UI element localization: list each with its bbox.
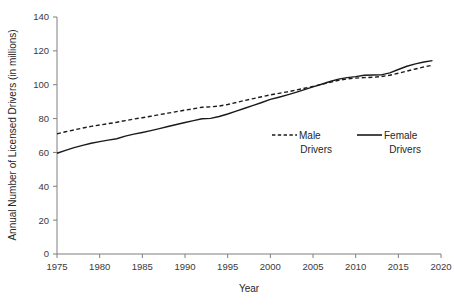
y-tick-label: 120 — [33, 45, 49, 56]
y-tick-label: 60 — [38, 147, 49, 158]
y-tick-label: 20 — [38, 215, 49, 226]
y-axis-title: Annual Number of Licensed Drivers (in mi… — [7, 29, 18, 240]
x-tick-label: 1980 — [89, 261, 110, 272]
x-tick-label: 2000 — [260, 261, 281, 272]
x-tick-label: 1975 — [46, 261, 67, 272]
x-tick-label: 1990 — [174, 261, 195, 272]
x-tick-label: 2005 — [302, 261, 323, 272]
x-axis-title: Year — [239, 283, 260, 294]
chart-canvas: 020406080100120140 197519801985199019952… — [0, 0, 454, 307]
x-tick-label: 2020 — [430, 261, 451, 272]
line-chart-licensed-drivers: 020406080100120140 197519801985199019952… — [0, 0, 454, 307]
x-tick-label: 1995 — [217, 261, 238, 272]
y-tick-label: 100 — [33, 79, 49, 90]
legend-label-male-line1: Male — [299, 130, 321, 141]
y-tick-label: 140 — [33, 11, 49, 22]
legend-label-female-line2: Drivers — [389, 144, 421, 155]
y-tick-label: 40 — [38, 181, 49, 192]
legend-label-female-line1: Female — [384, 130, 418, 141]
x-tick-label: 2010 — [345, 261, 366, 272]
x-tick-label: 1985 — [132, 261, 153, 272]
legend-label-male-line2: Drivers — [300, 144, 332, 155]
y-tick-label: 80 — [38, 113, 49, 124]
x-tick-label: 2015 — [388, 261, 409, 272]
y-tick-label: 0 — [44, 248, 49, 259]
